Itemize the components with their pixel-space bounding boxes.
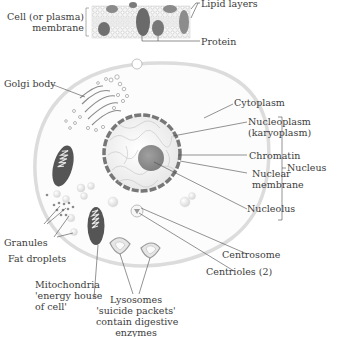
- label-fat-droplets: Fat droplets: [8, 253, 66, 264]
- label-lysosomes: Lysosomes 'suicide packets' contain dige…: [96, 294, 176, 337]
- label-nucleus: Nucleus: [287, 162, 326, 173]
- membrane-inset: [86, 2, 200, 41]
- label-chromatin: Chromatin: [249, 150, 300, 161]
- label-mitochondria: Mitochondria 'energy house of cell': [35, 279, 102, 312]
- label-cytoplasm: Cytoplasm: [234, 97, 285, 108]
- label-centrosome: Centrosome: [222, 249, 280, 260]
- label-protein: Protein: [201, 36, 236, 47]
- label-granules: Granules: [4, 237, 48, 248]
- label-nucleoplasm: Nucleoplasm (karyoplasm): [248, 116, 311, 138]
- label-golgi-body: Golgi body: [4, 78, 56, 89]
- cell-diagram: Cell (or plasma) membrane Lipid layers P…: [0, 0, 350, 337]
- label-lipid-layers: Lipid layers: [201, 0, 258, 9]
- nucleus: [104, 115, 180, 191]
- label-cell-membrane: Cell (or plasma) membrane: [4, 11, 84, 33]
- centrosome: [131, 205, 143, 217]
- label-nucleolus: Nucleolus: [247, 203, 295, 214]
- label-centrioles: Centrioles (2): [206, 266, 272, 277]
